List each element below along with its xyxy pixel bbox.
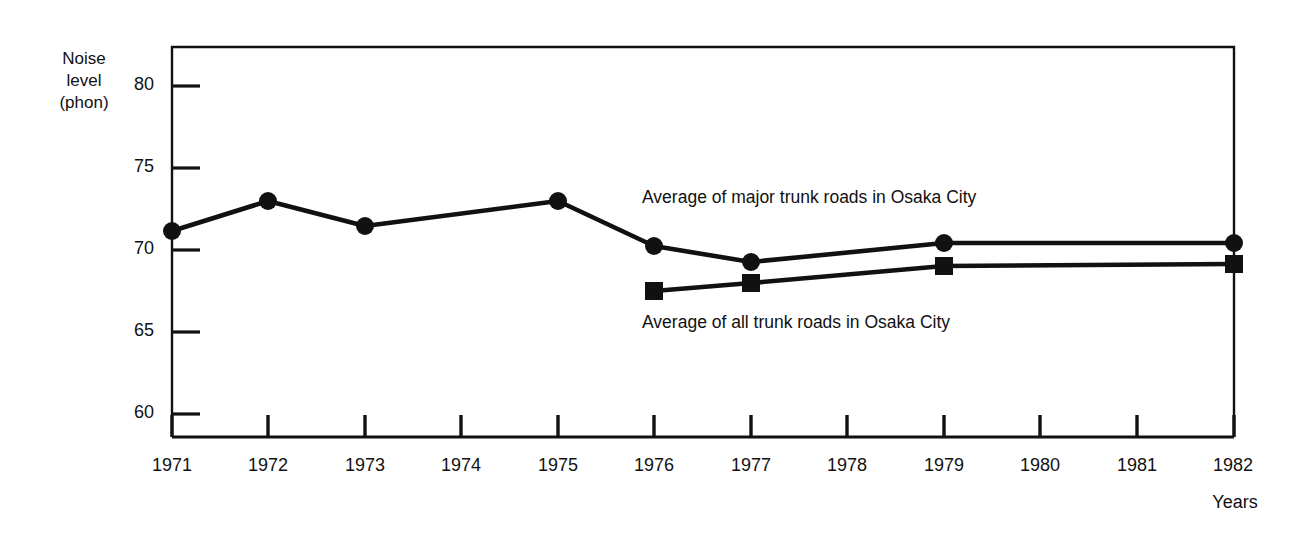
data-point bbox=[163, 222, 181, 240]
data-point bbox=[645, 282, 663, 300]
data-point bbox=[259, 192, 277, 210]
y-axis-ticks bbox=[172, 86, 200, 414]
data-point bbox=[356, 217, 374, 235]
chart-figure: Noise level (phon) 80 75 70 65 60 1971 1… bbox=[0, 0, 1297, 536]
data-point bbox=[1225, 234, 1243, 252]
plot-area bbox=[0, 0, 1297, 536]
data-point bbox=[742, 274, 760, 292]
data-point bbox=[742, 253, 760, 271]
data-point bbox=[935, 257, 953, 275]
data-point bbox=[549, 192, 567, 210]
series-major-trunk-roads bbox=[163, 192, 1243, 271]
x-axis-ticks bbox=[172, 415, 1234, 437]
data-point bbox=[645, 237, 663, 255]
data-point bbox=[1225, 255, 1243, 273]
data-point bbox=[935, 234, 953, 252]
series-all-trunk-roads bbox=[645, 255, 1243, 300]
